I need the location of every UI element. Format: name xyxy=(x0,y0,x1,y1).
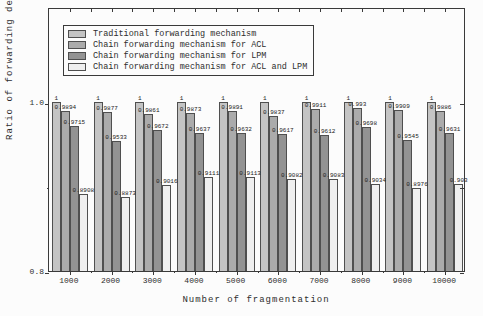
x-tick-label-9000: 9000 xyxy=(393,277,412,285)
x-minor-tick-5 xyxy=(258,271,259,273)
bar-value-label-acl-lpm-7000: 0.9083 xyxy=(323,173,345,179)
x-minor-tick-8 xyxy=(383,271,384,273)
bar-value-label-acl-lpm-5000: 0.9113 xyxy=(239,171,261,177)
x-top-tick-10000 xyxy=(445,9,446,12)
bar-value-label-lpm-6000: 0.9617 xyxy=(272,128,294,134)
bar-traditional-1000: 1 xyxy=(52,102,61,271)
x-top-minor-tick-3 xyxy=(174,9,175,12)
x-major-tick-6000 xyxy=(278,271,279,275)
bar-value-label-acl-3000: 0.9861 xyxy=(138,108,160,114)
y-axis-title: Ratio of forwarding delay xyxy=(5,0,15,140)
bar-value-label-acl-1000: 0.9894 xyxy=(55,105,77,111)
bar-acl-lpm-2000: 0.8873 xyxy=(121,197,130,271)
y-tick-label-0.8: 0.8 xyxy=(30,268,44,276)
x-top-minor-tick-5 xyxy=(258,9,259,12)
bar-traditional-3000: 1 xyxy=(135,102,144,271)
bar-traditional-8000: 1 xyxy=(344,102,353,271)
x-axis-title: Number of fragmentation xyxy=(182,295,329,305)
plot-area: Traditional forwarding mechanism Chain f… xyxy=(48,8,465,272)
bar-value-label-acl-lpm-8000: 0.9034 xyxy=(364,178,386,184)
x-top-minor-tick-1 xyxy=(91,9,92,12)
y-major-tick-left-1 xyxy=(45,104,49,105)
bar-value-label-acl-lpm-4000: 0.9111 xyxy=(198,171,220,177)
x-top-minor-tick-4 xyxy=(216,9,217,12)
bar-traditional-9000: 1 xyxy=(385,102,394,271)
x-tick-label-10000: 10000 xyxy=(432,277,456,285)
bar-value-label-traditional-4000: 1 xyxy=(180,96,184,102)
bar-value-label-acl-lpm-1000: 0.8908 xyxy=(73,188,95,194)
bar-value-label-traditional-6000: 1 xyxy=(263,96,267,102)
legend-row-acl: Chain forwarding mechanism for ACL xyxy=(68,40,307,50)
bar-acl-5000: 0.9891 xyxy=(228,111,237,271)
bar-value-label-traditional-2000: 1 xyxy=(96,96,100,102)
x-tick-label-1000: 1000 xyxy=(59,277,78,285)
x-top-minor-tick-7 xyxy=(341,9,342,12)
bar-traditional-6000: 1 xyxy=(260,102,269,271)
bar-value-label-lpm-4000: 0.9637 xyxy=(189,127,211,133)
bar-value-label-acl-lpm-10000: 0.903 xyxy=(450,178,468,184)
bar-group-8000: 10.9930.96980.9034 xyxy=(341,9,383,271)
bar-value-label-traditional-1000: 1 xyxy=(55,96,59,102)
bar-lpm-6000: 0.9617 xyxy=(278,134,287,271)
y-tick-right-1 xyxy=(460,104,464,105)
x-major-tick-2000 xyxy=(112,271,113,275)
bar-lpm-4000: 0.9637 xyxy=(195,133,204,272)
bar-traditional-5000: 1 xyxy=(219,102,228,271)
x-top-tick-5000 xyxy=(237,9,238,12)
x-top-tick-6000 xyxy=(278,9,279,12)
bar-group-10000: 10.98860.96310.903 xyxy=(424,9,466,271)
x-top-tick-7000 xyxy=(320,9,321,12)
bar-value-label-acl-4000: 0.9873 xyxy=(180,107,202,113)
bar-acl-lpm-3000: 0.9016 xyxy=(162,185,171,271)
bar-acl-lpm-1000: 0.8908 xyxy=(79,194,88,271)
bar-value-label-acl-lpm-9000: 0.8976 xyxy=(406,182,428,188)
x-top-minor-tick-9 xyxy=(424,9,425,12)
y-major-tick-left-0.8 xyxy=(45,273,49,274)
bar-acl-lpm-9000: 0.8976 xyxy=(412,188,421,271)
x-major-tick-4000 xyxy=(195,271,196,275)
bar-value-label-lpm-3000: 0.9672 xyxy=(147,124,169,130)
bar-lpm-10000: 0.9631 xyxy=(445,133,454,271)
bar-value-label-acl-lpm-6000: 0.9082 xyxy=(281,173,303,179)
x-top-tick-9000 xyxy=(403,9,404,12)
bar-traditional-2000: 1 xyxy=(94,102,103,271)
bar-acl-lpm-6000: 0.9082 xyxy=(287,179,296,271)
x-tick-label-7000: 7000 xyxy=(309,277,328,285)
bar-acl-lpm-10000: 0.903 xyxy=(454,184,463,271)
x-top-tick-8000 xyxy=(362,9,363,12)
x-minor-tick-9 xyxy=(424,271,425,273)
bar-acl-1000: 0.9894 xyxy=(61,111,70,271)
bar-traditional-7000: 1 xyxy=(302,102,311,271)
bar-acl-10000: 0.9886 xyxy=(436,111,445,271)
x-top-minor-tick-6 xyxy=(299,9,300,12)
x-top-minor-tick-2 xyxy=(132,9,133,12)
x-tick-label-8000: 8000 xyxy=(351,277,370,285)
x-tick-label-2000: 2000 xyxy=(101,277,120,285)
bar-value-label-acl-lpm-2000: 0.8873 xyxy=(114,191,136,197)
x-major-tick-1000 xyxy=(70,271,71,275)
bar-acl-lpm-4000: 0.9111 xyxy=(204,177,213,271)
bar-traditional-10000: 1 xyxy=(427,102,436,271)
legend-swatch-traditional xyxy=(68,30,86,38)
x-major-tick-5000 xyxy=(237,271,238,275)
bar-chart-figure: Ratio of forwarding delay 1.0 0.8 Tradit… xyxy=(0,0,483,316)
bar-value-label-lpm-2000: 0.9533 xyxy=(105,135,127,141)
bar-value-label-traditional-9000: 1 xyxy=(388,96,392,102)
bar-acl-lpm-8000: 0.9034 xyxy=(371,184,380,272)
x-minor-tick-4 xyxy=(216,271,217,273)
bar-value-label-acl-5000: 0.9891 xyxy=(221,105,243,111)
bar-value-label-acl-10000: 0.9886 xyxy=(430,105,452,111)
y-minor-tick-left-0.9 xyxy=(47,188,49,189)
bar-value-label-traditional-5000: 1 xyxy=(221,96,225,102)
bar-traditional-4000: 1 xyxy=(177,102,186,271)
y-tick-right-0.8 xyxy=(460,273,464,274)
bar-value-label-acl-8000: 0.993 xyxy=(348,102,366,108)
x-top-tick-4000 xyxy=(195,9,196,12)
legend-swatch-acl xyxy=(68,41,86,49)
bar-value-label-traditional-10000: 1 xyxy=(430,96,434,102)
bar-value-label-lpm-1000: 0.9715 xyxy=(64,120,86,126)
legend-row-acl-lpm: Chain forwarding mechanism for ACL and L… xyxy=(68,62,307,72)
legend-row-traditional: Traditional forwarding mechanism xyxy=(68,29,307,39)
bar-value-label-lpm-5000: 0.9632 xyxy=(230,127,252,133)
bar-value-label-lpm-7000: 0.9612 xyxy=(314,129,336,135)
